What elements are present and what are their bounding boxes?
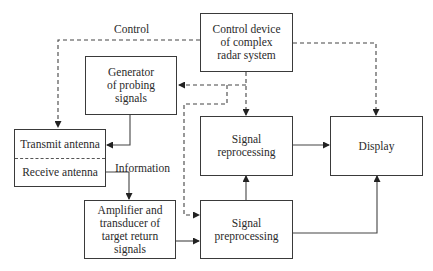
amplifier-line-1: Amplifier and <box>98 204 163 217</box>
control-label: Control <box>114 23 149 35</box>
signal-reprocessing-line-1: Signal <box>232 133 261 146</box>
amplifier-line-3: target return <box>102 230 158 243</box>
signal-preprocessing-line-1: Signal <box>232 217 261 230</box>
generator-line-3: signals <box>115 92 147 105</box>
control-device-line-2: of complex <box>220 36 272 49</box>
edge-receive-to-amplifier <box>106 172 129 199</box>
control-device-box: Control device of complex radar system <box>200 13 293 72</box>
signal-preprocessing-line-2: preprocessing <box>215 230 279 243</box>
antenna-box: Transmit antenna Receive antenna <box>14 129 106 187</box>
generator-box: Generator of probing signals <box>85 56 177 115</box>
signal-reprocessing-box: Signal reprocessing <box>200 116 293 176</box>
control-device-line-1: Control device <box>212 23 280 36</box>
amplifier-line-2: transducer of <box>100 217 160 230</box>
edge-preprocessing-to-display <box>293 176 377 233</box>
edge-generator-to-transmit <box>107 115 130 145</box>
signal-reprocessing-line-2: reprocessing <box>217 146 275 159</box>
control-device-line-3: radar system <box>217 49 275 62</box>
transmit-antenna: Transmit antenna <box>15 130 105 159</box>
generator-line-1: Generator <box>108 66 154 79</box>
amplifier-line-4: signals <box>114 243 146 256</box>
edge-control-to-display <box>293 43 376 115</box>
amplifier-box: Amplifier and transducer of target retur… <box>84 200 176 259</box>
receive-antenna: Receive antenna <box>15 158 105 186</box>
signal-preprocessing-box: Signal preprocessing <box>200 200 293 259</box>
display-box: Display <box>330 116 423 176</box>
generator-line-2: of probing <box>107 79 155 92</box>
information-label: Information <box>115 162 170 174</box>
display-label: Display <box>359 140 395 153</box>
